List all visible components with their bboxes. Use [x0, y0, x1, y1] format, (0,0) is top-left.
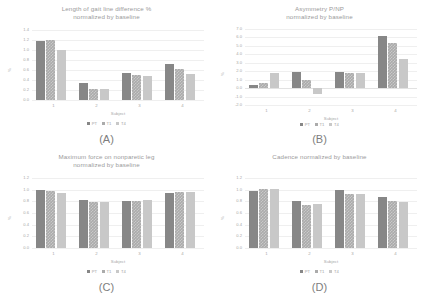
legend-item-t1[interactable]: T1: [315, 269, 324, 274]
legend-item-label: PT: [92, 121, 97, 126]
legend-item-pt[interactable]: PT: [87, 269, 97, 274]
legend-item-label: PT: [92, 269, 97, 274]
bar-group: [78, 30, 116, 100]
bar-t4-subject-3: [356, 194, 365, 248]
bar-t4-subject-1: [57, 193, 66, 248]
legend-swatch-icon: [300, 270, 303, 273]
y-axis-tick: 0.6: [23, 211, 29, 215]
chart-title-line2: normalized by baseline: [227, 13, 412, 21]
chart-panel-a: Length of gait line difference %normaliz…: [0, 0, 213, 148]
chart-title-line2: normalized by baseline: [14, 161, 199, 169]
bar-group: [164, 178, 202, 248]
y-axis-tick: 0.8: [236, 199, 242, 203]
x-axis-tick: 2: [291, 251, 329, 256]
bar-pt-subject-3: [122, 201, 131, 248]
figure-sheet: Length of gait line difference %normaliz…: [0, 0, 426, 296]
x-axis-tick: 2: [291, 108, 329, 113]
y-axis-tick: 1.2: [23, 38, 29, 42]
bar-t4-subject-2: [100, 202, 109, 248]
bar-group: [164, 30, 202, 100]
y-axis-tick: 1.0: [236, 188, 242, 192]
legend-item-t4[interactable]: T4: [116, 121, 125, 126]
legend-item-label: T4: [334, 269, 339, 274]
chart-title: Cadence normalized by baseline: [213, 153, 426, 161]
bar-group: [377, 29, 415, 105]
y-axis-tick: 7.0: [236, 27, 242, 31]
y-axis-tick: 0.6: [236, 211, 242, 215]
bar-t1-subject-3: [345, 194, 354, 248]
x-axis-tick: 1: [35, 251, 73, 256]
bar-group: [334, 178, 372, 248]
chart-title-line1: Asymmetry P/NP: [295, 5, 344, 12]
panel-label-c: (C): [0, 281, 213, 293]
legend-swatch-icon: [102, 122, 105, 125]
legend-item-t1[interactable]: T1: [102, 269, 111, 274]
chart-title-line1: Length of gait line difference %: [62, 5, 152, 12]
y-axis-tick: 3.0: [236, 61, 242, 65]
y-axis-tick: 0.4: [23, 78, 29, 82]
bar-t4-subject-2: [100, 89, 109, 100]
bar-pt-subject-4: [378, 197, 387, 248]
y-axis-tick: 6.0: [236, 35, 242, 39]
legend-item-pt[interactable]: PT: [300, 122, 310, 127]
bar-t1-subject-3: [345, 73, 354, 88]
bar-group: [78, 178, 116, 248]
y-axis-tick: 0.8: [23, 199, 29, 203]
chart-panel-c: Maximum force on nonparetic legnormalize…: [0, 148, 213, 296]
x-axis-tick: 2: [78, 251, 116, 256]
panel-label-d: (D): [213, 281, 426, 293]
bar-t1-subject-2: [302, 205, 311, 248]
legend-swatch-icon: [300, 123, 303, 126]
legend-item-t1[interactable]: T1: [102, 121, 111, 126]
bar-pt-subject-2: [79, 200, 88, 248]
bar-t4-subject-4: [186, 74, 195, 100]
x-axis-tick: 3: [121, 103, 159, 108]
bar-pt-subject-1: [36, 41, 45, 101]
plot-area: 1.41.21.00.80.60.40.20.0: [32, 30, 204, 100]
legend-item-label: T1: [107, 269, 112, 274]
bar-t4-subject-1: [270, 189, 279, 249]
bar-group: [291, 178, 329, 248]
x-axis-tick: 3: [334, 251, 372, 256]
chart-panel-d: Cadence normalized by baseline1.21.00.80…: [213, 148, 426, 296]
bar-t4-subject-4: [399, 202, 408, 248]
legend-item-t4[interactable]: T4: [329, 122, 338, 127]
y-axis-tick: 1.4: [23, 28, 29, 32]
legend-item-pt[interactable]: PT: [87, 121, 97, 126]
y-axis-tick: 1.0: [23, 48, 29, 52]
legend-item-label: T1: [107, 121, 112, 126]
plot-area: 1.21.00.80.60.40.20.0: [245, 178, 417, 248]
gridline: [245, 248, 417, 249]
bar-pt-subject-2: [292, 201, 301, 248]
y-axis-tick: 0.0: [23, 98, 29, 102]
legend-item-t1[interactable]: T1: [315, 122, 324, 127]
legend-swatch-icon: [315, 270, 318, 273]
y-axis-tick: 0.0: [236, 246, 242, 250]
x-axis-tick: 4: [164, 251, 202, 256]
legend-item-t4[interactable]: T4: [329, 269, 338, 274]
y-axis-tick: 2.0: [236, 69, 242, 73]
y-axis-tick: 0.2: [23, 234, 29, 238]
bar-t4-subject-2: [313, 88, 322, 94]
x-axis-tick: 1: [248, 251, 286, 256]
bar-t1-subject-2: [89, 89, 98, 100]
bar-t4-subject-3: [356, 73, 365, 88]
y-axis-tick: 1.2: [236, 176, 242, 180]
bar-t1-subject-3: [132, 75, 141, 101]
x-axis-ticks: 1234: [245, 108, 417, 113]
bar-group: [248, 29, 286, 105]
legend-swatch-icon: [87, 122, 90, 125]
bar-t1-subject-2: [302, 80, 311, 88]
y-axis-tick: 0.2: [23, 88, 29, 92]
y-axis-label: %: [220, 72, 225, 76]
chart-legend: PTT1T4: [0, 121, 213, 126]
y-axis-tick: -2.0: [235, 103, 242, 107]
gridline: [245, 105, 417, 106]
x-axis-tick: 1: [35, 103, 73, 108]
legend-item-pt[interactable]: PT: [300, 269, 310, 274]
legend-item-t4[interactable]: T4: [116, 269, 125, 274]
bar-pt-subject-3: [122, 73, 131, 101]
bar-group: [377, 178, 415, 248]
bar-t4-subject-4: [399, 59, 408, 88]
bar-t4-subject-3: [143, 200, 152, 248]
